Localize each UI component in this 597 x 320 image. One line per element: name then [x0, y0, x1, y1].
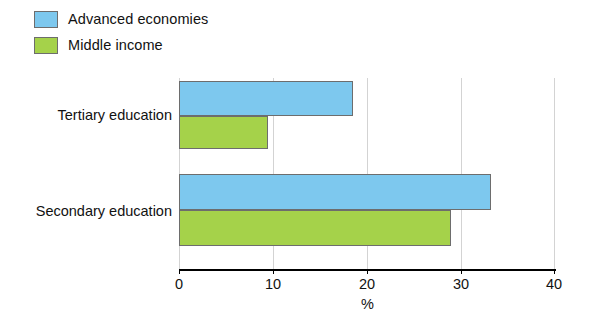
x-tick-mark-20	[367, 269, 368, 274]
x-tick-label-10: 10	[253, 276, 293, 292]
bar-tertiary-middle-income[interactable]	[179, 116, 268, 149]
legend-label-middle-income: Middle income	[68, 37, 163, 53]
x-tick-mark-40	[554, 269, 555, 274]
legend-swatch-advanced-economies	[34, 11, 58, 28]
x-axis-title: %	[179, 296, 556, 312]
bar-chart: Advanced economies Middle income Tertiar…	[0, 0, 597, 320]
legend-item-advanced-economies: Advanced economies	[34, 8, 208, 30]
x-tick-label-40: 40	[534, 276, 574, 292]
chart-legend: Advanced economies Middle income	[34, 8, 208, 60]
bar-secondary-advanced-economies[interactable]	[179, 174, 491, 210]
bar-secondary-middle-income[interactable]	[179, 210, 451, 246]
category-label-tertiary: Tertiary education	[0, 107, 172, 123]
category-label-secondary: Secondary education	[0, 203, 172, 219]
gridline-40	[554, 78, 555, 269]
legend-item-middle-income: Middle income	[34, 34, 208, 56]
x-tick-mark-0	[179, 269, 180, 274]
x-tick-label-30: 30	[441, 276, 481, 292]
x-tick-mark-10	[273, 269, 274, 274]
x-tick-mark-30	[461, 269, 462, 274]
bar-tertiary-advanced-economies[interactable]	[179, 81, 353, 116]
x-tick-label-20: 20	[347, 276, 387, 292]
legend-swatch-middle-income	[34, 37, 58, 54]
x-tick-label-0: 0	[159, 276, 199, 292]
legend-label-advanced-economies: Advanced economies	[68, 11, 208, 27]
